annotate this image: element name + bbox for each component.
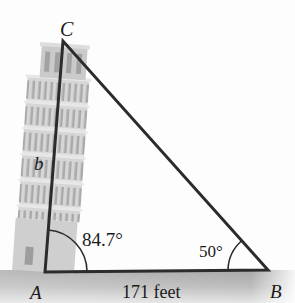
triangle-diagram: C b 84.7° 50° A 171 feet B bbox=[0, 0, 295, 303]
vertex-label-b: B bbox=[270, 282, 282, 301]
side-label-ab: 171 feet bbox=[122, 283, 180, 301]
angle-arc-b bbox=[228, 241, 242, 271]
vertex-label-a: A bbox=[30, 283, 42, 302]
angle-label-b: 50° bbox=[199, 243, 223, 260]
angle-label-a: 84.7° bbox=[82, 230, 123, 249]
side-label-b: b bbox=[34, 154, 44, 173]
diagram-graphics bbox=[0, 0, 295, 303]
vertex-label-c: C bbox=[60, 19, 73, 39]
